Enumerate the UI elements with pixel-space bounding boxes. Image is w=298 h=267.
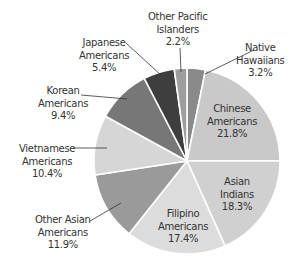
label-line1: Korean [38,85,88,98]
label-line1: Other Asian [35,214,91,227]
label-other-asian: Other Asian Americans 11.9% [35,214,91,252]
label-pct: 17.4% [158,233,208,246]
label-line2: Americans [207,116,257,129]
label-line1: Chinese [207,103,257,116]
label-line1: Asian [220,176,254,189]
label-line1: Vietnamese [19,143,75,156]
label-asian-indians: Asian Indians 18.3% [220,176,254,214]
label-pct: 3.2% [236,67,285,80]
label-line2: Americans [38,98,88,111]
label-line2: Hawaiians [236,55,285,68]
label-vietnamese: Vietnamese Americans 10.4% [19,143,75,181]
label-line2: Indians [220,189,254,202]
label-line1: Filipino [158,208,208,221]
label-line1: Native [236,42,285,55]
label-pct: 2.2% [148,36,207,49]
label-pct: 21.8% [207,128,257,141]
label-line2: Americans [19,156,75,169]
label-chinese: Chinese Americans 21.8% [207,103,257,141]
label-pct: 10.4% [19,168,75,181]
label-pct: 11.9% [35,239,91,252]
label-line2: Americans [35,227,91,240]
label-other-pacific: Other Pacific Islanders 2.2% [148,11,207,49]
label-line2: Americans [158,221,208,234]
label-line1: Other Pacific [148,11,207,24]
label-native-hawaiians: Native Hawaiians 3.2% [236,42,285,80]
label-line1: Japanese [79,37,129,50]
label-filipino: Filipino Americans 17.4% [158,208,208,246]
label-pct: 5.4% [79,62,129,75]
label-korean: Korean Americans 9.4% [38,85,88,123]
label-pct: 9.4% [38,110,88,123]
label-japanese: Japanese Americans 5.4% [79,37,129,75]
label-pct: 18.3% [220,201,254,214]
label-line2: Islanders [148,24,207,37]
label-line2: Americans [79,50,129,63]
